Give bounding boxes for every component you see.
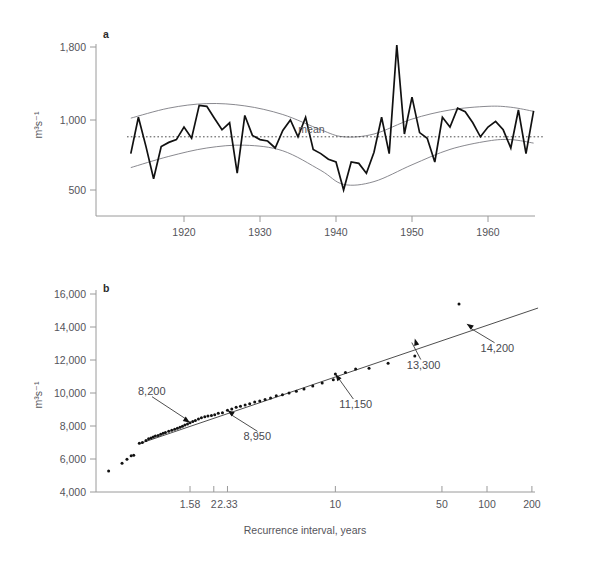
panel-b-point [130,454,133,457]
panel-b-xtick-label-1.58: 1.58 [180,498,201,510]
panel-b-ytick-label-4000: 4,000 [60,486,86,498]
panel-b-point [387,362,390,365]
panel-a-upper-envelope [131,103,534,137]
panel-a-xtick-label-1940: 1940 [324,226,348,238]
panel-b-annotation-label-8200: 8,200 [138,385,166,397]
panel-b-ytick-label-12000: 12,000 [54,354,86,366]
panel-b-xtick-label-2: 2 [211,498,217,510]
panel-b-point [206,415,209,418]
panel-b-xtick-label-2.33: 2.33 [217,498,238,510]
panel-b-point [213,413,216,416]
panel-b-xtick-label-100: 100 [478,498,496,510]
figure-svg: a 1,800 1,000 500 1920 1930 1940 [0,0,604,565]
panel-a-discharge-series [131,45,534,190]
panel-b-point [264,398,267,401]
panel-a-mean-label: mean [298,123,324,135]
panel-b-point [145,439,148,442]
panel-b-point [354,368,357,371]
panel-a: a 1,800 1,000 500 1920 1930 1940 [32,28,545,238]
panel-a-ytick-label-500: 500 [68,184,86,196]
panel-b-point [230,408,233,411]
panel-b: b 4,0006,0008,00010,00012,00014,00016,00… [32,282,541,536]
panel-b-point [107,469,110,472]
figure-root: a 1,800 1,000 500 1920 1930 1940 [0,0,604,565]
panel-b-point [368,367,371,370]
panel-a-letter: a [103,28,109,40]
panel-b-point [141,441,144,444]
panel-b-x-ticks: 1.5822.331050100200 [180,486,541,510]
panel-b-point [167,430,170,433]
panel-b-point [288,392,291,395]
panel-b-point [200,416,203,419]
panel-b-fit-line [140,308,538,443]
panel-b-point [458,302,461,305]
panel-b-xtick-label-200: 200 [523,498,541,510]
panel-b-point [321,382,324,385]
panel-b-point [295,390,298,393]
panel-b-annotation-label-11150: 11,150 [339,398,372,410]
panel-b-letter: b [103,282,109,294]
panel-b-point [253,401,256,404]
panel-b-annotation-leader [230,414,257,431]
panel-b-point [235,406,238,409]
panel-b-annotation-leader [152,397,187,420]
panel-b-point [125,458,128,461]
panel-b-ytick-label-16000: 16,000 [54,288,86,300]
panel-a-xtick-label-1950: 1950 [400,226,424,238]
panel-a-xtick-label-1960: 1960 [476,226,500,238]
panel-b-point [239,405,242,408]
panel-a-ytick-label-1000: 1,000 [60,114,86,126]
panel-b-point [154,435,157,438]
panel-b-point [191,420,194,423]
panel-b-point [332,378,335,381]
panel-b-point [275,394,278,397]
panel-b-point [281,393,284,396]
panel-a-y-ticks: 1,800 1,000 500 [60,41,96,196]
panel-b-point [302,387,305,390]
panel-b-point [197,417,200,420]
panel-b-point [269,396,272,399]
panel-b-point [217,412,220,415]
panel-b-point [221,411,224,414]
panel-b-annotation-arrowhead [465,322,474,330]
panel-a-lower-envelope [131,139,534,185]
panel-a-y-axis-label: m³s⁻¹ [32,111,44,138]
panel-b-ytick-label-8000: 8,000 [60,420,86,432]
panel-b-point [258,399,261,402]
panel-b-point [121,462,124,465]
panel-b-annotation-leader [470,328,495,343]
panel-b-annotation-leader [338,378,353,399]
panel-b-annotation-label-13300: 13,300 [407,359,441,371]
panel-b-y-axis-label: m³s⁻¹ [32,381,44,408]
panel-b-point [210,414,213,417]
panel-b-point [138,442,141,445]
panel-b-y-ticks: 4,0006,0008,00010,00012,00014,00016,000 [54,288,96,498]
panel-a-xtick-label-1930: 1930 [248,226,272,238]
panel-b-point [413,354,416,357]
panel-a-ytick-label-1800: 1,800 [60,41,86,53]
panel-b-point [157,434,160,437]
panel-b-point [176,427,179,430]
panel-a-x-ticks: 1920 1930 1940 1950 1960 [172,216,500,238]
panel-b-point [311,385,314,388]
panel-b-ytick-label-14000: 14,000 [54,321,86,333]
panel-b-point [248,402,251,405]
panel-b-point [344,371,347,374]
panel-a-xtick-label-1920: 1920 [172,226,196,238]
panel-b-point [244,403,247,406]
panel-b-ytick-label-6000: 6,000 [60,453,86,465]
panel-b-xtick-label-50: 50 [436,498,448,510]
panel-b-point [173,428,176,431]
panel-b-annotation-label-14200: 14,200 [481,342,515,354]
panel-b-point [170,429,173,432]
panel-b-point [164,431,167,434]
panel-b-point [203,415,206,418]
panel-b-annotation-label-8950: 8,950 [243,430,271,442]
panel-b-xtick-label-10: 10 [330,498,342,510]
panel-b-point [183,424,186,427]
panel-b-point [194,419,197,422]
panel-b-point [132,454,135,457]
panel-b-annotations: 8,2008,95011,15013,30014,200 [138,322,514,443]
panel-b-ytick-label-10000: 10,000 [54,387,86,399]
panel-b-x-axis-label: Recurrence interval, years [244,524,367,536]
